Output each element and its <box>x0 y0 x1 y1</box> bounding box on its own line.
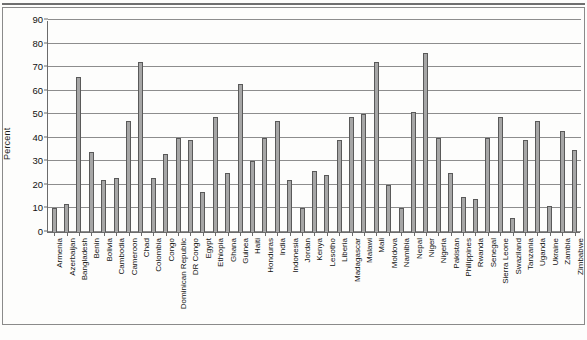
x-axis-label-slot: Rwanda <box>468 238 480 322</box>
x-axis-label-slot: Ghana <box>220 238 232 322</box>
bar-slot <box>556 20 568 232</box>
x-axis-tick-mark <box>129 232 130 236</box>
x-axis-tick-mark <box>91 232 92 236</box>
bar[interactable] <box>473 199 478 232</box>
x-axis-tick-mark <box>550 232 551 236</box>
x-axis-tick-mark <box>277 232 278 236</box>
x-axis-tick-mark <box>302 232 303 236</box>
bar[interactable] <box>76 77 81 232</box>
bar[interactable] <box>64 204 69 232</box>
x-axis-label-slot: Cameroon <box>121 238 133 322</box>
bar[interactable] <box>262 138 267 232</box>
bar[interactable] <box>287 180 292 232</box>
bar-slot <box>383 20 395 232</box>
y-axis-tick-label: 90 <box>32 14 43 25</box>
x-axis-label-slot: Armenia <box>47 238 59 322</box>
bar[interactable] <box>213 117 218 232</box>
x-axis-tick-mark <box>265 232 266 236</box>
x-axis-label-slot: Lesotho <box>320 238 332 322</box>
bar-slot <box>333 20 345 232</box>
bar[interactable] <box>114 178 119 232</box>
x-axis-tick-mark <box>463 232 464 236</box>
bar[interactable] <box>200 192 205 232</box>
bar[interactable] <box>349 117 354 232</box>
bar-slot <box>221 20 233 232</box>
bar[interactable] <box>411 112 416 232</box>
x-axis-tick-mark <box>79 232 80 236</box>
bar-slot <box>98 20 110 232</box>
bar[interactable] <box>52 208 57 232</box>
x-axis-tick-label: Zimbabwe <box>577 238 585 275</box>
bar-slot <box>432 20 444 232</box>
y-axis-tick-label: 40 <box>32 131 43 142</box>
x-axis-label-slot: India <box>270 238 282 322</box>
bar[interactable] <box>448 173 453 232</box>
x-axis-tick-mark <box>166 232 167 236</box>
x-axis-tick-mark <box>475 232 476 236</box>
bar[interactable] <box>485 138 490 232</box>
x-axis-label-slot: Bangladesh <box>72 238 84 322</box>
x-axis-label-slot: Madagascar <box>344 238 356 322</box>
bar-slot <box>73 20 85 232</box>
bar[interactable] <box>386 185 391 232</box>
bar-slot <box>494 20 506 232</box>
bar[interactable] <box>436 138 441 232</box>
bar[interactable] <box>151 178 156 232</box>
bar[interactable] <box>225 173 230 232</box>
bar-slot <box>506 20 518 232</box>
x-axis-labels: ArmeniaAzerbaijanBangladeshBeninBoliviaC… <box>47 238 580 322</box>
bar[interactable] <box>163 154 168 232</box>
bar-slot <box>209 20 221 232</box>
bar[interactable] <box>523 140 528 232</box>
x-axis-tick-mark <box>54 232 55 236</box>
x-axis-tick-mark <box>426 232 427 236</box>
x-axis-tick-mark <box>228 232 229 236</box>
bar-slot <box>271 20 283 232</box>
bar[interactable] <box>535 121 540 232</box>
x-axis-tick-mark <box>414 232 415 236</box>
x-axis-tick-mark <box>67 232 68 236</box>
bar[interactable] <box>101 180 106 232</box>
bar[interactable] <box>399 208 404 232</box>
bar[interactable] <box>324 175 329 232</box>
x-axis-tick-mark <box>116 232 117 236</box>
bar-slot <box>544 20 556 232</box>
bar-slot <box>308 20 320 232</box>
bar[interactable] <box>498 117 503 232</box>
x-axis-label-slot: Benin <box>84 238 96 322</box>
bar[interactable] <box>238 84 243 232</box>
x-axis-label-slot: Uganda <box>530 238 542 322</box>
x-axis-label-slot: Chad <box>134 238 146 322</box>
bar[interactable] <box>510 218 515 232</box>
bar[interactable] <box>312 171 317 232</box>
bar[interactable] <box>300 208 305 232</box>
bar[interactable] <box>461 197 466 232</box>
bar[interactable] <box>423 53 428 232</box>
x-axis-tick-mark <box>104 232 105 236</box>
bar[interactable] <box>275 121 280 232</box>
bar[interactable] <box>337 140 342 232</box>
bar[interactable] <box>547 206 552 232</box>
x-axis-label-slot: Haiti <box>245 238 257 322</box>
bar[interactable] <box>560 131 565 232</box>
x-axis-label-slot: Namibia <box>394 238 406 322</box>
bar-slot <box>482 20 494 232</box>
x-axis-label-slot: Colombia <box>146 238 158 322</box>
bar[interactable] <box>126 121 131 232</box>
x-axis-tick-mark <box>389 232 390 236</box>
y-axis-tick-label: 10 <box>32 202 43 213</box>
x-axis-label-slot: Malawi <box>357 238 369 322</box>
bar[interactable] <box>188 140 193 232</box>
bar[interactable] <box>374 62 379 232</box>
bar[interactable] <box>89 152 94 232</box>
x-axis-tick-mark <box>537 232 538 236</box>
bar[interactable] <box>138 62 143 232</box>
bar-slot <box>60 20 72 232</box>
x-axis-label-slot: Sierra Leone <box>493 238 505 322</box>
bar[interactable] <box>361 114 366 232</box>
bar-slot <box>122 20 134 232</box>
bar[interactable] <box>250 161 255 232</box>
bar[interactable] <box>176 138 181 232</box>
y-axis-tick-label: 30 <box>32 155 43 166</box>
bar[interactable] <box>572 150 577 232</box>
